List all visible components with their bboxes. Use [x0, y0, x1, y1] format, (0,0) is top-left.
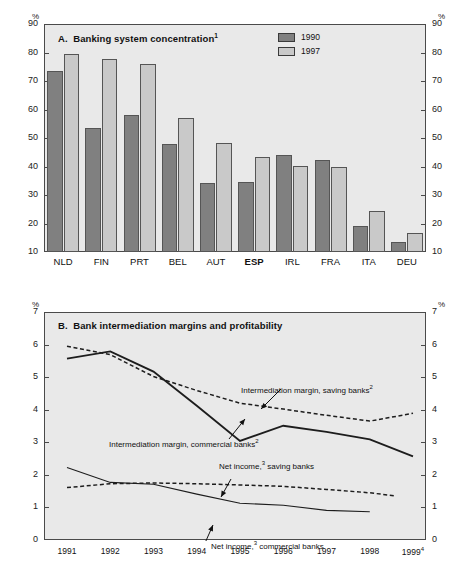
bar-fra-1997	[331, 167, 347, 253]
y-tick-label-a-right: 40	[432, 161, 450, 171]
y-tick-label-b-right: 5	[432, 371, 450, 381]
y-tick-label-b-right: 7	[432, 306, 450, 316]
y-tick-label-b-right: 2	[432, 469, 450, 479]
y-tick-label-b: 1	[20, 501, 38, 511]
bar-aut-1997	[216, 143, 232, 252]
y-tick-label-a-right: 60	[432, 104, 450, 114]
bar-prt-1990	[124, 115, 140, 252]
y-tick-label-b: 5	[20, 371, 38, 381]
bar-bel-1990	[162, 144, 178, 252]
x-year-label-1997: 1997	[305, 546, 349, 556]
y-tick-label-a-right: 30	[432, 189, 450, 199]
y-tick-label-a: 30	[20, 189, 38, 199]
x-year-label-1996: 1996	[261, 546, 305, 556]
bar-esp-1997	[255, 157, 271, 252]
line-chart-b	[45, 313, 427, 541]
y-tick-label-a: 90	[20, 18, 38, 28]
y-tick-label-a: 80	[20, 47, 38, 57]
y-tick-label-b-right: 4	[432, 404, 450, 414]
annotation-label-2: Net income,3 saving banks	[219, 460, 314, 471]
y-tick-label-b-right: 3	[432, 436, 450, 446]
bar-esp-1990	[238, 182, 254, 252]
y-tick-label-a-right: 20	[432, 218, 450, 228]
bars-a	[45, 25, 425, 251]
bar-nld-1990	[47, 71, 63, 252]
bar-irl-1990	[276, 155, 292, 252]
y-tick-label-a-right: 50	[432, 132, 450, 142]
bar-ita-1990	[353, 226, 369, 252]
annotation-label-0: Intermediation margin, saving banks2	[241, 384, 373, 395]
bar-fin-1997	[102, 59, 118, 252]
y-tick-label-b: 2	[20, 469, 38, 479]
x-year-label-1998: 1998	[348, 546, 392, 556]
bar-nld-1997	[64, 54, 80, 252]
y-tick-label-b-right: 1	[432, 501, 450, 511]
panel-b-margins-profitability: % % B. Bank intermediation margins and p…	[0, 292, 467, 585]
y-tick-label-a: 10	[20, 246, 38, 256]
bar-deu-1990	[391, 242, 407, 252]
bar-fra-1990	[315, 160, 331, 252]
y-tick-label-a-right: 70	[432, 75, 450, 85]
y-tick-label-b: 7	[20, 306, 38, 316]
bar-bel-1997	[178, 118, 194, 252]
y-tick-label-b-right: 0	[432, 534, 450, 544]
panel-a-banking-concentration: % % A. Banking system concentration1 199…	[0, 0, 467, 292]
bar-ita-1997	[369, 211, 385, 252]
x-category-label-deu: DEU	[385, 256, 429, 267]
y-tick-label-b-right: 6	[432, 339, 450, 349]
y-tick-label-a-right: 80	[432, 47, 450, 57]
y-tick-label-a: 40	[20, 161, 38, 171]
x-year-label-1993: 1993	[132, 546, 176, 556]
bar-prt-1997	[140, 64, 156, 252]
y-tick-label-a: 20	[20, 218, 38, 228]
y-tick-label-b: 6	[20, 339, 38, 349]
bar-aut-1990	[200, 183, 216, 252]
bar-irl-1997	[293, 166, 309, 252]
bar-deu-1997	[407, 233, 423, 252]
bar-fin-1990	[85, 128, 101, 252]
y-tick-label-a-right: 10	[432, 246, 450, 256]
y-tick-label-a: 50	[20, 132, 38, 142]
x-year-label-1991: 1991	[45, 546, 89, 556]
annotation-label-1: Intermediation margin, commercial banks2	[109, 438, 259, 449]
y-tick-label-a-right: 90	[432, 18, 450, 28]
x-year-label-1992: 1992	[88, 546, 132, 556]
line-series-2	[67, 483, 396, 496]
x-year-label-1999: 19994	[391, 546, 435, 557]
y-tick-label-b: 3	[20, 436, 38, 446]
x-year-label-1994: 1994	[175, 546, 219, 556]
y-tick-label-b: 4	[20, 404, 38, 414]
y-tick-label-b: 0	[20, 534, 38, 544]
y-tick-label-a: 60	[20, 104, 38, 114]
x-year-label-1995: 1995	[218, 546, 262, 556]
y-tick-label-a: 70	[20, 75, 38, 85]
